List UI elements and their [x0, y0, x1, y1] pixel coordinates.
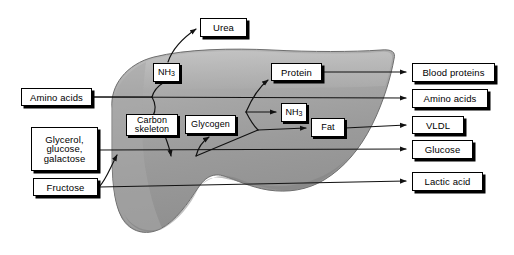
label-text: Glucose — [425, 144, 461, 155]
label-vldl[interactable]: VLDL — [412, 116, 464, 134]
subscript: 3 — [299, 110, 303, 117]
label-text: NH3 — [285, 107, 302, 119]
liver-metabolism-diagram: Amino acids Glycerol, glucose, galactose… — [0, 0, 514, 255]
label-text: Glycogen — [191, 119, 230, 130]
label-glucose[interactable]: Glucose — [412, 140, 473, 159]
label-line-3: galactose — [44, 154, 86, 164]
subscript: 3 — [171, 70, 175, 77]
label-glycerol-glucose-galactose[interactable]: Glycerol, glucose, galactose — [31, 127, 98, 171]
label-ammonia-upper[interactable]: NH3 — [153, 63, 180, 82]
label-text: VLDL — [426, 120, 450, 131]
label-text: Fructose — [47, 182, 85, 193]
label-text: Amino acids — [424, 93, 477, 104]
label-lactic-acid[interactable]: Lactic acid — [412, 172, 483, 191]
label-text: Lactic acid — [425, 176, 471, 187]
label-glycogen[interactable]: Glycogen — [185, 115, 236, 134]
label-line-2: skeleton — [135, 125, 169, 135]
label-urea[interactable]: Urea — [200, 18, 247, 37]
label-text: Protein — [281, 67, 312, 78]
label-ammonia-lower[interactable]: NH3 — [281, 103, 307, 122]
label-amino-acids-output[interactable]: Amino acids — [412, 89, 488, 108]
label-blood-proteins[interactable]: Blood proteins — [412, 63, 495, 82]
label-protein[interactable]: Protein — [271, 63, 322, 81]
label-amino-acids-input[interactable]: Amino acids — [21, 88, 92, 106]
label-text: Blood proteins — [422, 67, 484, 78]
label-text: Fat — [321, 122, 334, 133]
label-text: NH3 — [158, 67, 175, 79]
label-text: Amino acids — [30, 92, 83, 103]
label-carbon-skeleton[interactable]: Carbon skeleton — [126, 114, 178, 136]
label-text: Urea — [213, 22, 234, 33]
label-fat[interactable]: Fat — [311, 118, 345, 137]
label-fructose[interactable]: Fructose — [33, 178, 98, 196]
